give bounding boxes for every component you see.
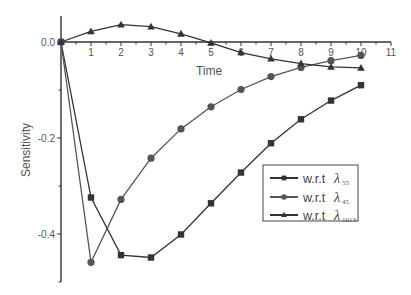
circle-marker (147, 155, 154, 162)
x-tick-label: 3 (148, 47, 154, 58)
y-axis-title: Sensitivity (19, 123, 33, 177)
legend: w.r.tλ55w.r.tλ45w.r.tλ1013 (263, 165, 358, 224)
square-marker (178, 231, 184, 237)
square-marker (358, 82, 364, 88)
x-tick-label: 11 (386, 47, 397, 58)
square-marker (88, 194, 94, 200)
circle-marker (357, 52, 364, 59)
circle-marker (87, 259, 94, 266)
legend-subscript: 45 (342, 198, 350, 206)
x-tick-label: 8 (298, 47, 304, 58)
y-tick-label: 0.0 (41, 37, 55, 48)
circle-marker (207, 103, 214, 110)
axes: 12345678910110.0-0.2-0.4 (38, 16, 397, 282)
x-tick-label: 2 (118, 47, 124, 58)
x-axis-title: Time (196, 64, 223, 78)
square-marker (298, 116, 304, 122)
square-marker (328, 97, 334, 103)
square-marker (238, 169, 244, 175)
square-marker (282, 176, 287, 181)
legend-subscript: 55 (342, 179, 350, 187)
x-tick-label: 1 (88, 47, 94, 58)
legend-subscript: 1013 (342, 216, 357, 224)
triangle-marker (117, 21, 125, 28)
lambda-symbol: λ (333, 208, 340, 223)
square-marker (118, 252, 124, 258)
circle-marker (267, 73, 274, 80)
y-tick-label: -0.4 (38, 229, 56, 240)
legend-label: w.r.t (302, 209, 326, 223)
y-tick-label: -0.2 (38, 133, 56, 144)
square-marker (268, 140, 274, 146)
lambda-symbol: λ (333, 190, 340, 205)
legend-label: w.r.t (302, 172, 326, 186)
legend-label: w.r.t (302, 191, 326, 205)
circle-marker (281, 194, 287, 200)
sensitivity-chart: 12345678910110.0-0.2-0.4 Time Sensitivit… (0, 0, 411, 295)
square-marker (148, 254, 154, 260)
x-tick-label: 4 (178, 47, 184, 58)
circle-marker (237, 86, 244, 93)
lambda-symbol: λ (333, 171, 340, 186)
square-marker (208, 200, 214, 206)
x-tick-label: 9 (328, 47, 334, 58)
circle-marker (117, 196, 124, 203)
circle-marker (177, 125, 184, 132)
x-tick-label: 5 (208, 47, 214, 58)
